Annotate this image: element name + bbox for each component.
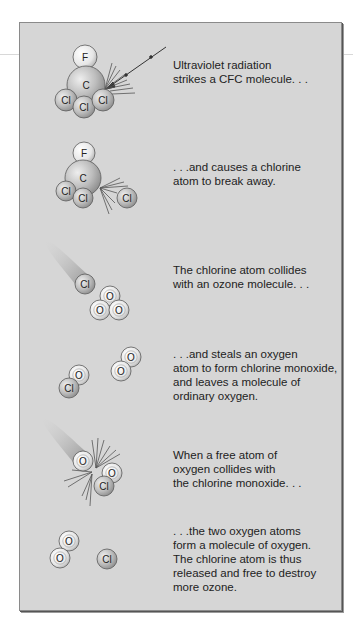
svg-text:O: O [106, 291, 114, 302]
svg-text:C: C [82, 80, 89, 91]
atom-cl-icon: Cl [92, 89, 114, 111]
atom-o-icon: O [50, 548, 70, 568]
svg-text:O: O [96, 305, 104, 316]
svg-text:Cl: Cl [99, 481, 108, 492]
step-2-caption: . . .and causes a chlorine atom to break… [173, 160, 338, 188]
step-6-caption: . . .the two oxygen atoms form a molecul… [173, 524, 338, 594]
step-5-caption: When a free atom of oxygen collides with… [173, 448, 338, 490]
svg-text:Cl: Cl [78, 193, 87, 204]
svg-text:O: O [56, 553, 64, 564]
svg-text:O: O [65, 536, 73, 547]
svg-text:Cl: Cl [64, 383, 73, 394]
svg-text:O: O [115, 305, 123, 316]
svg-text:O: O [79, 456, 87, 467]
svg-text:F: F [81, 148, 87, 159]
atom-cl-icon: Cl [59, 378, 79, 398]
atoms-layer: FCClClClFCClClClClOOOOClOOOOClOOCl [50, 45, 141, 569]
impact-spark-icon [105, 63, 135, 94]
atom-cl-icon: Cl [73, 188, 93, 208]
step-1-caption: Ultraviolet radiation strikes a CFC mole… [173, 58, 338, 86]
atom-cl-icon: Cl [117, 188, 137, 208]
svg-text:F: F [82, 52, 88, 63]
atom-cl-icon: Cl [94, 476, 114, 496]
svg-text:Cl: Cl [98, 95, 107, 106]
svg-text:O: O [127, 352, 135, 363]
svg-text:O: O [75, 370, 83, 381]
atom-cl-icon: Cl [97, 549, 117, 569]
svg-text:Cl: Cl [79, 102, 88, 113]
step-3-caption: The chlorine atom collides with an ozone… [173, 263, 338, 291]
svg-text:Cl: Cl [122, 193, 131, 204]
svg-text:Cl: Cl [102, 554, 111, 565]
atom-f-icon: F [73, 45, 97, 69]
svg-text:Cl: Cl [80, 279, 89, 290]
svg-text:O: O [117, 366, 125, 377]
atom-o-icon: O [109, 300, 129, 320]
atom-cl-icon: Cl [75, 274, 95, 294]
atom-o-icon: O [90, 300, 110, 320]
svg-text:Cl: Cl [61, 186, 70, 197]
atom-o-icon: O [111, 361, 131, 381]
atom-o-icon: O [73, 451, 93, 471]
svg-text:C: C [79, 173, 86, 184]
step-4-caption: . . .and steals an oxygen atom to form c… [173, 347, 338, 403]
svg-text:Cl: Cl [61, 95, 70, 106]
